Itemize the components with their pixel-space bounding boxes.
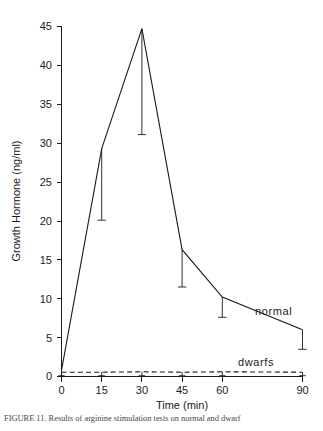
normal-line: [62, 29, 303, 371]
x-tick-label-0: 0: [58, 384, 64, 396]
figure-caption-band: FIGURE 11. Results of arginine stimulati…: [0, 414, 323, 431]
series-label-normal: normal: [255, 305, 292, 317]
x-tick-label-90: 90: [296, 384, 308, 396]
y-axis: 45 40 35 30 25 20 15 10 5 0 Growth Hormo…: [10, 20, 62, 382]
x-tick-label-45: 45: [176, 384, 188, 396]
growth-hormone-line-chart: 45 40 35 30 25 20 15 10 5 0 Growth Hormo…: [0, 0, 323, 431]
x-tick-label-30: 30: [136, 384, 148, 396]
normal-error-bars: [98, 29, 307, 350]
y-tick-label-40: 40: [40, 59, 52, 71]
y-tick-label-10: 10: [40, 293, 52, 305]
y-tick-label-5: 5: [46, 332, 52, 344]
y-tick-label-45: 45: [40, 20, 52, 32]
y-axis-title: Growth Hormone (ng/ml): [10, 140, 22, 261]
series-normal: normal: [62, 29, 307, 371]
y-tick-label-35: 35: [40, 98, 52, 110]
x-axis: 0 15 30 45 60 90 Time (min): [58, 377, 308, 412]
y-tick-label-0: 0: [46, 370, 52, 382]
series-dwarfs: dwarfs: [58, 356, 305, 376]
series-label-dwarfs: dwarfs: [238, 356, 274, 368]
x-tick-label-15: 15: [96, 384, 108, 396]
figure-caption: FIGURE 11. Results of arginine stimulati…: [4, 414, 322, 424]
y-tick-label-15: 15: [40, 254, 52, 266]
figure-container: 45 40 35 30 25 20 15 10 5 0 Growth Hormo…: [0, 0, 323, 431]
x-axis-title: Time (min): [156, 399, 208, 411]
x-tick-label-60: 60: [216, 384, 228, 396]
y-axis-ticks: [57, 27, 62, 377]
y-tick-label-30: 30: [40, 137, 52, 149]
y-tick-label-20: 20: [40, 215, 52, 227]
x-axis-ticks: [62, 377, 303, 383]
y-tick-label-25: 25: [40, 176, 52, 188]
